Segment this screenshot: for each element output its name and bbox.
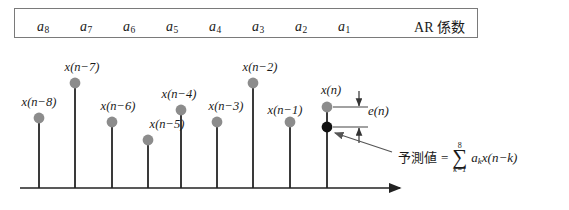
prediction-formula: 予測値 = 8 ∑ k=1 akx(n−k) xyxy=(398,142,517,174)
ar-prediction-diagram: a8 a7 a6 a5 a4 a3 a2 a1 AR 係数 x(n−8) x(n… xyxy=(0,0,569,210)
prediction-leader-line xyxy=(335,133,392,152)
stem-label-x-n-1: x(n−1) xyxy=(268,104,303,117)
stem-dot xyxy=(143,135,154,146)
stem-label-x-n-8: x(n−8) xyxy=(22,96,57,109)
stem-dot xyxy=(70,78,81,89)
stem-label-x-n-3: x(n−3) xyxy=(209,100,244,113)
prediction-formula-label: 予測値 xyxy=(398,151,437,164)
stem-label-x-n-6: x(n−6) xyxy=(101,100,136,113)
prediction-formula-equals: = xyxy=(441,151,448,164)
stem-dot xyxy=(212,117,223,128)
stem-label-x-n: x(n) xyxy=(321,84,341,97)
predicted-value-dot xyxy=(322,122,333,133)
stem-dot xyxy=(107,117,118,128)
stem-label-x-n-2: x(n−2) xyxy=(243,61,278,74)
summation-operator: 8 ∑ k=1 xyxy=(452,142,467,174)
summation-lower-limit: k=1 xyxy=(453,166,466,174)
stem-dot xyxy=(285,117,296,128)
stem-label-x-n-4: x(n−4) xyxy=(162,88,197,101)
stem-label-x-n-5: x(n−5) xyxy=(150,118,185,131)
error-label: e(n) xyxy=(368,104,389,117)
summation-term: akx(n−k) xyxy=(471,151,517,164)
stem-dot xyxy=(34,113,45,124)
stem-dot xyxy=(248,78,259,89)
stem-label-x-n-7: x(n−7) xyxy=(65,61,100,74)
stem-dot xyxy=(176,105,187,116)
stem-dot xyxy=(322,102,333,113)
